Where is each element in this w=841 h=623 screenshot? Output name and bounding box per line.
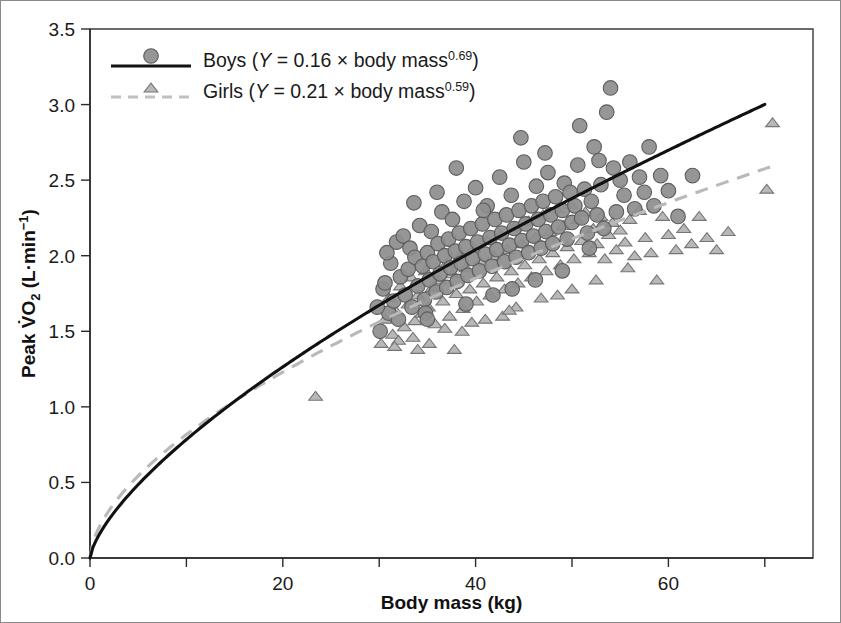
data-point-boys bbox=[538, 146, 553, 161]
data-point-boys bbox=[592, 153, 607, 168]
data-point-boys bbox=[449, 161, 464, 176]
data-point-boys bbox=[430, 185, 445, 200]
data-point-boys bbox=[492, 170, 507, 185]
figure-container: 0204060 0.00.51.01.52.02.53.03.5 Boys (Y… bbox=[0, 0, 841, 623]
data-point-boys bbox=[517, 155, 532, 170]
data-point-boys bbox=[486, 288, 501, 303]
legend-marker-boys bbox=[144, 49, 159, 64]
data-point-boys bbox=[514, 131, 529, 146]
y-axis-title: Peak V̇O2 (L·min−1) bbox=[16, 209, 43, 378]
data-point-boys bbox=[468, 180, 483, 195]
data-point-boys bbox=[528, 273, 543, 288]
data-point-boys bbox=[476, 203, 491, 218]
legend-label-girls: Girls (Y = 0.21 × body mass0.59) bbox=[203, 80, 476, 102]
data-point-boys bbox=[609, 205, 624, 220]
data-point-boys bbox=[603, 81, 618, 96]
data-point-boys bbox=[572, 118, 587, 133]
data-point-boys bbox=[570, 158, 585, 173]
x-tick-label: 60 bbox=[658, 573, 679, 594]
data-point-boys bbox=[420, 312, 435, 327]
data-point-boys bbox=[632, 170, 647, 185]
data-point-boys bbox=[590, 208, 605, 223]
y-tick-label: 3.0 bbox=[49, 95, 75, 116]
data-point-boys bbox=[617, 188, 632, 203]
data-point-boys bbox=[378, 276, 393, 291]
data-point-boys bbox=[445, 212, 460, 227]
data-point-boys bbox=[380, 245, 395, 260]
x-tick-label: 0 bbox=[85, 573, 96, 594]
scatter-chart: 0204060 0.00.51.01.52.02.53.03.5 Boys (Y… bbox=[1, 1, 841, 623]
x-axis-title: Body mass (kg) bbox=[381, 592, 522, 613]
y-tick-label: 3.5 bbox=[49, 19, 75, 40]
data-point-boys bbox=[642, 140, 657, 155]
data-point-boys bbox=[555, 264, 570, 279]
data-point-boys bbox=[504, 188, 519, 203]
y-tick-label: 2.5 bbox=[49, 170, 75, 191]
data-point-boys bbox=[582, 241, 597, 256]
data-point-boys bbox=[671, 209, 686, 224]
data-point-boys bbox=[599, 105, 614, 120]
y-tick-label: 0.5 bbox=[49, 472, 75, 493]
data-point-boys bbox=[584, 194, 599, 209]
data-point-boys bbox=[373, 324, 388, 339]
y-tick-label: 0.0 bbox=[49, 548, 75, 569]
data-point-boys bbox=[637, 185, 652, 200]
data-point-boys bbox=[685, 168, 700, 183]
data-point-boys bbox=[661, 183, 676, 198]
y-tick-label: 2.0 bbox=[49, 246, 75, 267]
data-point-boys bbox=[529, 179, 544, 194]
y-tick-label: 1.0 bbox=[49, 397, 75, 418]
x-tick-label: 40 bbox=[465, 573, 486, 594]
data-point-boys bbox=[459, 297, 474, 312]
data-point-boys bbox=[548, 189, 563, 204]
data-point-boys bbox=[653, 168, 668, 183]
data-point-boys bbox=[580, 226, 595, 241]
data-point-boys bbox=[457, 194, 472, 209]
data-point-boys bbox=[541, 165, 556, 180]
data-point-boys bbox=[505, 282, 520, 297]
y-tick-label: 1.5 bbox=[49, 321, 75, 342]
data-point-boys bbox=[407, 196, 422, 211]
legend-label-boys: Boys (Y = 0.16 × body mass0.69) bbox=[203, 49, 479, 71]
data-point-boys bbox=[587, 140, 602, 155]
data-point-boys bbox=[574, 211, 589, 226]
x-tick-label: 20 bbox=[272, 573, 293, 594]
